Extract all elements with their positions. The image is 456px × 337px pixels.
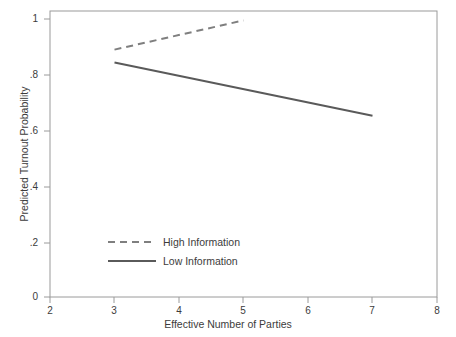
x-tick-label-7: 7 — [362, 305, 382, 316]
legend-label-high-information: High Information — [163, 236, 240, 248]
y-tick-label-0: 0 — [12, 291, 38, 302]
x-tick-label-2: 2 — [40, 305, 60, 316]
x-axis-ticks — [50, 297, 437, 303]
x-tick-label-3: 3 — [104, 305, 124, 316]
x-axis-title: Effective Number of Parties — [0, 318, 456, 330]
y-axis-title: Predicted Turnout Probability — [18, 44, 30, 264]
x-tick-label-8: 8 — [427, 305, 447, 316]
y-tick-label-1: 1 — [12, 13, 38, 24]
legend-label-low-information: Low Information — [163, 255, 238, 267]
series-line-high-information — [115, 20, 244, 49]
chart-figure: 1 .8 .6 .4 .2 0 2 3 4 5 6 7 8 Effective … — [0, 0, 456, 337]
x-tick-label-6: 6 — [298, 305, 318, 316]
x-tick-label-5: 5 — [233, 305, 253, 316]
plot-frame — [50, 11, 437, 297]
y-axis-ticks — [44, 19, 50, 297]
series-line-low-information — [115, 62, 373, 115]
plot-area-svg — [0, 0, 456, 337]
x-tick-label-4: 4 — [169, 305, 189, 316]
